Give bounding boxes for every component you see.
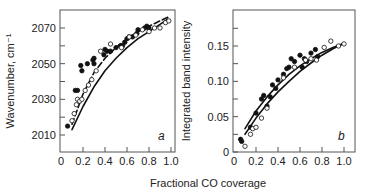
x-tick-label: 0.2 bbox=[248, 155, 263, 167]
filled-data-point bbox=[313, 47, 317, 51]
filled-data-point bbox=[298, 53, 302, 57]
panel-letter: a bbox=[158, 129, 165, 143]
open-data-point bbox=[329, 39, 333, 43]
filled-data-point bbox=[270, 83, 274, 87]
x-tick-label: 0.4 bbox=[97, 155, 112, 167]
filled-data-point bbox=[300, 65, 304, 69]
x-tick-label: 0 bbox=[231, 155, 237, 167]
open-data-point bbox=[152, 26, 156, 30]
open-data-point bbox=[90, 78, 94, 82]
figure: 201020302050207000.20.40.60.81.0Wavenumb… bbox=[0, 0, 365, 192]
open-data-point bbox=[292, 65, 296, 69]
y-tick-label: 2010 bbox=[32, 129, 56, 141]
y-axis-title: Integrated band intensity bbox=[180, 20, 192, 141]
open-data-point bbox=[80, 97, 84, 101]
filled-data-point bbox=[268, 95, 272, 99]
solid-fit-curve bbox=[245, 43, 344, 134]
filled-data-point bbox=[274, 86, 278, 90]
filled-data-point bbox=[80, 69, 84, 73]
filled-data-point bbox=[85, 62, 89, 66]
x-tick-label: 0.4 bbox=[270, 155, 285, 167]
panel-b: 00.050.100.1500.20.40.60.81.0Integrated … bbox=[180, 10, 355, 167]
filled-data-point bbox=[309, 51, 313, 55]
y-tick-label: 2030 bbox=[32, 93, 56, 105]
open-data-point bbox=[140, 28, 144, 32]
filled-data-point bbox=[114, 45, 118, 49]
open-data-point bbox=[314, 58, 318, 62]
open-data-point bbox=[108, 42, 112, 46]
filled-data-point bbox=[136, 28, 140, 32]
open-data-point bbox=[70, 119, 74, 123]
y-tick-label: 0.10 bbox=[208, 75, 229, 87]
x-tick-label: 0.8 bbox=[141, 155, 156, 167]
dashed-fit-curve bbox=[72, 17, 168, 124]
y-tick-label: 0 bbox=[223, 146, 229, 158]
filled-data-point bbox=[108, 49, 112, 53]
y-tick-label: 2050 bbox=[32, 58, 56, 70]
filled-data-point bbox=[254, 111, 258, 115]
filled-data-point bbox=[65, 124, 69, 128]
filled-data-point bbox=[75, 88, 79, 92]
panel-letter: b bbox=[338, 129, 345, 143]
filled-data-point bbox=[102, 53, 106, 57]
y-tick-label: 0.05 bbox=[208, 111, 229, 123]
filled-data-point bbox=[262, 93, 266, 97]
y-axis-title: Wavenumber, cm⁻¹ bbox=[4, 33, 16, 128]
filled-data-point bbox=[292, 59, 296, 63]
solid-fit-curve bbox=[72, 19, 168, 130]
x-axis-title: Fractional CO coverage bbox=[150, 177, 266, 189]
open-data-point bbox=[254, 125, 258, 129]
open-data-point bbox=[86, 83, 90, 87]
filled-data-point bbox=[240, 139, 244, 143]
y-tick-label: 0.15 bbox=[208, 40, 229, 52]
filled-data-point bbox=[92, 62, 96, 66]
x-tick-label: 0.6 bbox=[119, 155, 134, 167]
open-data-point bbox=[322, 45, 326, 49]
open-data-point bbox=[248, 132, 252, 136]
open-data-point bbox=[147, 29, 151, 33]
solid-fit-curve bbox=[245, 43, 344, 129]
open-data-point bbox=[309, 57, 313, 61]
open-data-point bbox=[158, 26, 162, 30]
filled-data-point bbox=[276, 78, 280, 82]
filled-data-point bbox=[287, 65, 291, 69]
open-data-point bbox=[72, 111, 76, 115]
y-tick-label: 2070 bbox=[32, 22, 56, 34]
x-tick-label: 1.0 bbox=[163, 155, 178, 167]
panel-a: 201020302050207000.20.40.60.81.0Wavenumb… bbox=[4, 10, 179, 167]
open-data-point bbox=[336, 44, 340, 48]
open-data-point bbox=[134, 33, 138, 37]
open-data-point bbox=[127, 35, 131, 39]
open-data-point bbox=[342, 42, 346, 46]
open-data-point bbox=[167, 19, 171, 23]
open-data-point bbox=[74, 103, 78, 107]
filled-data-point bbox=[79, 63, 83, 67]
open-data-point bbox=[259, 116, 263, 120]
open-data-point bbox=[281, 76, 285, 80]
open-data-point bbox=[265, 106, 269, 110]
open-data-point bbox=[303, 58, 307, 62]
x-tick-label: 0 bbox=[58, 155, 64, 167]
filled-data-point bbox=[92, 56, 96, 60]
open-data-point bbox=[119, 45, 123, 49]
open-data-point bbox=[243, 144, 247, 148]
x-tick-label: 0.8 bbox=[314, 155, 329, 167]
open-data-point bbox=[83, 88, 87, 92]
open-data-point bbox=[98, 49, 102, 53]
open-data-point bbox=[94, 69, 98, 73]
x-tick-label: 0.2 bbox=[75, 155, 90, 167]
x-tick-label: 1.0 bbox=[336, 155, 351, 167]
x-tick-label: 0.6 bbox=[292, 155, 307, 167]
